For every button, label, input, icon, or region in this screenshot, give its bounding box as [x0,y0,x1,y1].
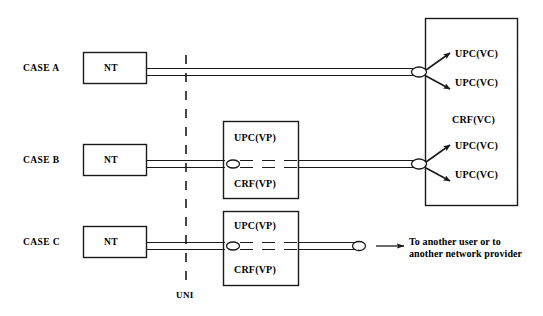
case-a-label: CASE A [23,63,59,74]
case-b-crf-vp-label: CRF(VP) [234,178,276,190]
uni-label: UNI [176,290,194,301]
crf-vc-label: CRF(VC) [452,114,495,126]
crf-vc-upc-label-a1: UPC(VC) [455,48,498,60]
case-b-label: CASE B [23,155,59,166]
case-c-crf-vp-label: CRF(VP) [234,264,276,276]
case-a-arrow-1 [426,53,450,70]
case-a-nt-label: NT [104,63,118,74]
external-note-line-1: To another user or to [409,236,522,248]
case-a-vc-connector [412,67,427,77]
case-a-arrow-2 [426,76,450,89]
case-b-arrow-2 [426,168,450,181]
case-c-endpoint-connector [353,242,366,251]
case-c-nt-label: NT [104,237,118,248]
case-b-nt-label: NT [104,155,118,166]
external-destination-note: To another user or to another network pr… [409,236,522,260]
case-b-vc-connector [412,159,427,169]
case-b-arrow-1 [426,145,450,162]
case-b-vp-connector [227,160,240,168]
external-note-line-2: another network provider [409,248,522,260]
diagram-canvas: CASE A CASE B CASE C NT NT NT UPC(VP) CR… [0,0,543,316]
case-c-vp-connector [227,242,240,250]
crf-vc-upc-label-a2: UPC(VC) [455,77,498,89]
case-c-label: CASE C [23,237,60,248]
crf-vc-upc-label-b1: UPC(VC) [455,140,498,152]
case-c-upc-vp-label: UPC(VP) [234,220,276,232]
crf-vc-upc-label-b2: UPC(VC) [455,169,498,181]
case-b-upc-vp-label: UPC(VP) [234,132,276,144]
